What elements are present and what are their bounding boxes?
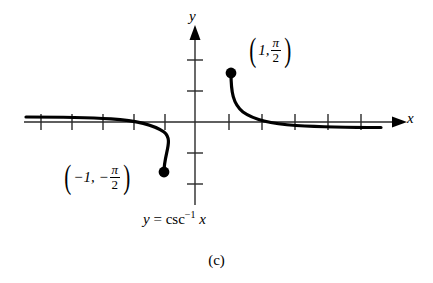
equation-function-name: csc [166, 211, 185, 227]
equation-argument: x [199, 211, 206, 227]
figure-caption: (c) [0, 252, 433, 269]
fraction-numerator: π [110, 163, 121, 177]
point-label-open-paren: ( [64, 163, 71, 191]
endpoint-dot-upper-right [226, 68, 237, 79]
point-label-fraction: π 2 [271, 36, 282, 64]
equation-lhs: y [143, 211, 150, 227]
point-label-lower-left: ( −1, − π 2 ) [62, 163, 132, 191]
equation-exponent: −1 [185, 209, 196, 220]
point-label-open-paren: ( [249, 36, 256, 64]
point-label-x-value: −1, − [73, 170, 108, 185]
fraction-numerator: π [271, 36, 282, 50]
y-axis-label: y [189, 8, 196, 25]
inverse-cosecant-graph [0, 0, 433, 283]
equation-label: y = csc−1 x [143, 211, 206, 228]
point-label-upper-right: ( 1, π 2 ) [247, 36, 293, 64]
point-label-close-paren: ) [123, 163, 130, 191]
fraction-denominator: 2 [271, 51, 282, 65]
figure-background [0, 0, 433, 283]
point-label-fraction: π 2 [110, 163, 121, 191]
equation-equals-sign: = [153, 211, 161, 227]
endpoint-dot-lower-left [159, 167, 170, 178]
point-label-x-value: 1, [258, 43, 269, 58]
x-axis-label: x [407, 110, 414, 127]
fraction-denominator: 2 [110, 178, 121, 192]
point-label-close-paren: ) [284, 36, 291, 64]
